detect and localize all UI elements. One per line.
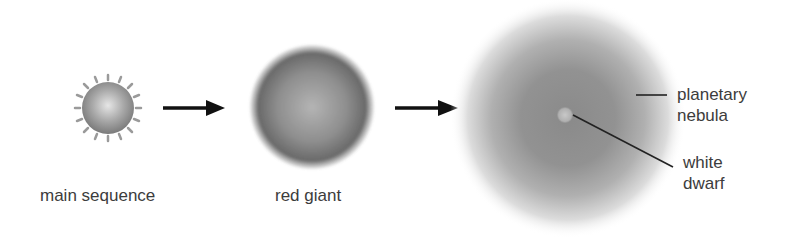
red-giant-label: red giant xyxy=(275,185,341,206)
white-dwarf-label-line1: white xyxy=(683,152,723,173)
planetary-nebula-label-line2: nebula xyxy=(677,105,728,126)
diagram-artwork xyxy=(0,0,794,248)
planetary-nebula-label-line1: planetary xyxy=(677,84,747,105)
stellar-evolution-diagram: main sequence red giant planetary nebula… xyxy=(0,0,794,248)
arrow-right-icon xyxy=(395,100,458,116)
arrow-right-icon xyxy=(163,100,225,116)
white-dwarf-label-line2: dwarf xyxy=(683,173,725,194)
red-giant-star-icon xyxy=(249,44,375,170)
main-sequence-star-icon xyxy=(75,75,141,141)
main-sequence-label: main sequence xyxy=(40,185,155,206)
white-dwarf-star-icon xyxy=(557,107,573,123)
